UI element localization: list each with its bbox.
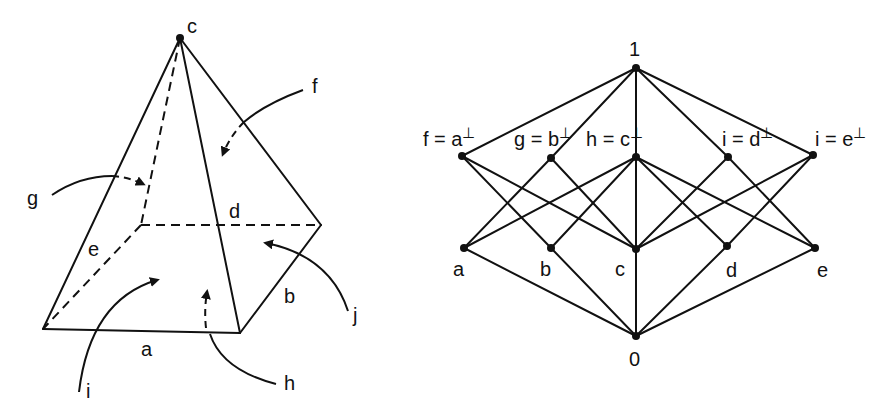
node-d [723,242,731,250]
label-bottom: 0 [629,348,640,370]
label-f: f = a⊥ [423,124,475,150]
figure: c d e a b f g i h j [0,0,887,413]
label-b: b [540,258,551,280]
pyramid-edge-back-right [180,38,321,225]
face-label-j: j [352,304,357,326]
pyramid-edge-front-right [180,38,240,333]
edge-label-d: d [229,200,240,222]
node-e [811,244,819,252]
node-h [632,153,640,161]
apex-label: c [187,15,197,37]
face-label-f: f [312,75,318,97]
arrow-f-icon [223,90,303,154]
node-i-d [724,153,732,161]
lattice-edge [728,157,815,248]
lattice-edge [636,246,727,336]
node-g [547,154,555,162]
node-bottom [632,332,640,340]
face-label-g: g [27,187,38,209]
edge-label-a: a [141,338,153,360]
label-e: e [817,259,828,281]
lattice-edge [636,155,813,249]
node-c [632,245,640,253]
face-label-h: h [284,372,295,394]
arrow-h-icon [205,292,276,384]
edge-label-b: b [284,285,295,307]
node-a [460,244,468,252]
pyramid-diagram: c d e a b f g i h j [27,15,357,402]
arrow-g-icon [52,176,143,195]
label-d: d [726,259,737,281]
label-c: c [615,258,625,280]
lattice-edge [462,156,551,248]
node-i-e [809,151,817,159]
pyramid-base-right [240,225,321,333]
node-b [547,244,555,252]
pyramid-base-front [43,329,240,333]
label-top: 1 [629,38,640,60]
lattice-edge [636,68,728,157]
label-a: a [453,258,465,280]
pyramid-hidden-edge-back-left [141,38,180,225]
arrow-i-icon [79,280,157,392]
arrow-j-icon [266,243,348,311]
lattice-diagram: 1 0 f = a⊥ g = b⊥ h = c⊥ i = d⊥ i = e⊥ a… [423,38,866,370]
face-label-i: i [86,380,90,402]
apex-dot [176,34,184,42]
label-i-e: i = e⊥ [815,124,866,150]
node-f [458,152,466,160]
pyramid-edge-front-left [43,38,180,329]
edge-label-e: e [88,238,99,260]
label-i-d: i = d⊥ [722,124,773,150]
label-h: h = c⊥ [586,124,643,150]
node-top [632,64,640,72]
